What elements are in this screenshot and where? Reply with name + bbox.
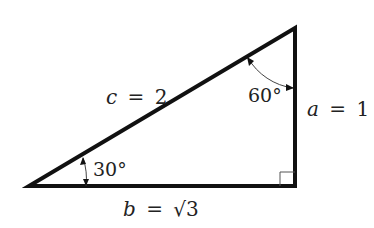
label-angle-60: 60° <box>248 84 282 106</box>
label-angle-30: 30° <box>93 158 127 180</box>
label-base: b = √3 <box>123 197 199 221</box>
right-angle-marker <box>280 172 295 186</box>
arrow-head-60-right <box>286 84 294 91</box>
label-hypotenuse: c = 2 <box>106 85 167 109</box>
triangle-diagram: c = 2 a = 1 b = √3 30° 60° <box>0 0 374 228</box>
label-vertical-side: a = 1 <box>307 97 369 121</box>
arrow-head-30-top <box>80 157 86 165</box>
